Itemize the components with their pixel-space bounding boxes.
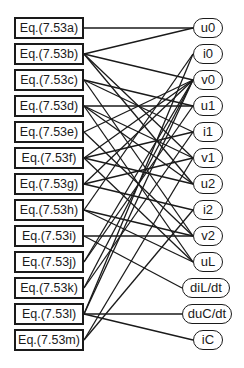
variable-node-u2: u2 (193, 174, 223, 194)
equation-box-g: Eq.(7.53g) (14, 173, 84, 195)
equation-box-k: Eq.(7.53k) (14, 277, 84, 299)
edge-h-v2 (84, 210, 193, 236)
equation-box-d: Eq.(7.53d) (14, 95, 84, 117)
equation-box-m: Eq.(7.53m) (14, 329, 84, 351)
variable-node-iC: iC (193, 330, 223, 350)
equation-box-f: Eq.(7.53f) (14, 147, 84, 169)
edge-l-v0 (84, 80, 193, 314)
variable-node-v2: v2 (193, 226, 223, 246)
edge-f-i1 (84, 132, 193, 158)
edge-l-iC (84, 314, 193, 340)
edge-h-i0 (84, 54, 193, 210)
variable-node-v1: v1 (193, 148, 223, 168)
variable-node-diL-dt: diL/dt (182, 278, 230, 298)
equation-box-i: Eq.(7.53i) (14, 225, 84, 247)
equation-variable-graph: Eq.(7.53a) Eq.(7.53b) Eq.(7.53c) Eq.(7.5… (0, 0, 244, 368)
variable-node-duC-dt: duC/dt (182, 304, 232, 324)
edge-c-v2 (84, 80, 193, 236)
variable-node-uL: uL (193, 252, 223, 272)
edge-j-v0 (84, 80, 193, 262)
equation-box-j: Eq.(7.53j) (14, 251, 84, 273)
edge-b-v0 (84, 54, 193, 80)
variable-node-i1: i1 (193, 122, 223, 142)
equation-box-h: Eq.(7.53h) (14, 199, 84, 221)
variable-node-i2: i2 (193, 200, 223, 220)
equation-box-a: Eq.(7.53a) (14, 17, 84, 39)
variable-node-u1: u1 (193, 96, 223, 116)
variable-node-v0: v0 (193, 70, 223, 90)
variable-node-u0: u0 (193, 18, 223, 38)
equation-box-l: Eq.(7.53l) (14, 303, 84, 325)
edge-b-u0 (84, 28, 193, 54)
variable-node-i0: i0 (193, 44, 223, 64)
equation-box-c: Eq.(7.53c) (14, 69, 84, 91)
equation-box-e: Eq.(7.53e) (14, 121, 84, 143)
equation-box-b: Eq.(7.53b) (14, 43, 84, 65)
